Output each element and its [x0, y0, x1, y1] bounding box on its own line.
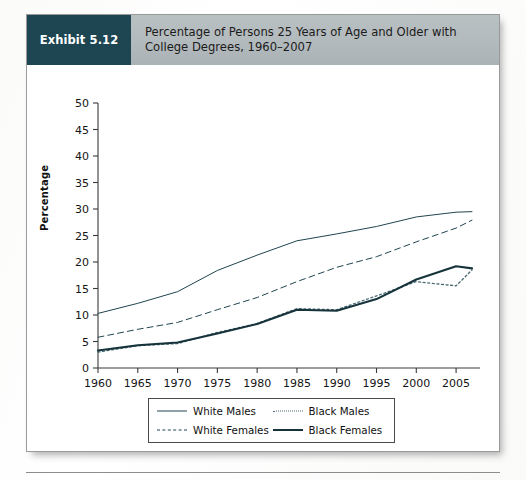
svg-text:1965: 1965 — [124, 377, 152, 390]
page-divider-rule — [26, 472, 500, 473]
svg-text:2000: 2000 — [402, 377, 430, 390]
legend-label: White Males — [193, 405, 256, 417]
legend-item-black-females: Black Females — [273, 424, 389, 436]
svg-text:1985: 1985 — [283, 377, 311, 390]
svg-text:35: 35 — [75, 177, 89, 190]
exhibit-card: Exhibit 5.12 Percentage of Persons 25 Ye… — [26, 14, 500, 452]
svg-text:5: 5 — [82, 336, 89, 349]
legend-swatch-dashed-icon — [157, 426, 187, 434]
legend-item-white-males: White Males — [157, 405, 273, 417]
chart-legend: White Males Black Males White Females Bl… — [148, 398, 395, 443]
line-chart: 0510152025303540455019601965197019751980… — [27, 65, 501, 453]
legend-swatch-solid-thick-icon — [273, 426, 303, 434]
exhibit-title: Percentage of Persons 25 Years of Age an… — [131, 15, 499, 65]
svg-text:50: 50 — [75, 97, 89, 110]
svg-text:20: 20 — [75, 256, 89, 269]
legend-label: Black Females — [309, 424, 383, 436]
exhibit-figure: Exhibit 5.12 Percentage of Persons 25 Ye… — [0, 0, 526, 480]
exhibit-number-badge: Exhibit 5.12 — [27, 15, 131, 65]
legend-item-white-females: White Females — [157, 424, 273, 436]
svg-text:1970: 1970 — [164, 377, 192, 390]
svg-text:45: 45 — [75, 124, 89, 137]
legend-swatch-dotted-icon — [273, 407, 303, 415]
svg-text:40: 40 — [75, 150, 89, 163]
legend-item-black-males: Black Males — [273, 405, 389, 417]
legend-label: White Females — [193, 424, 269, 436]
svg-text:10: 10 — [75, 309, 89, 322]
svg-text:30: 30 — [75, 203, 89, 216]
svg-text:1990: 1990 — [323, 377, 351, 390]
svg-text:2005: 2005 — [442, 377, 470, 390]
svg-text:1980: 1980 — [243, 377, 271, 390]
svg-text:1975: 1975 — [203, 377, 231, 390]
legend-label: Black Males — [309, 405, 370, 417]
legend-swatch-solid-thin-icon — [157, 407, 187, 415]
exhibit-header: Exhibit 5.12 Percentage of Persons 25 Ye… — [27, 15, 499, 65]
plot-area: Percentage 05101520253035404550196019651… — [27, 65, 501, 453]
svg-text:1995: 1995 — [363, 377, 391, 390]
svg-text:15: 15 — [75, 283, 89, 296]
svg-text:25: 25 — [75, 230, 89, 243]
svg-text:1960: 1960 — [84, 377, 112, 390]
svg-text:0: 0 — [82, 362, 89, 375]
